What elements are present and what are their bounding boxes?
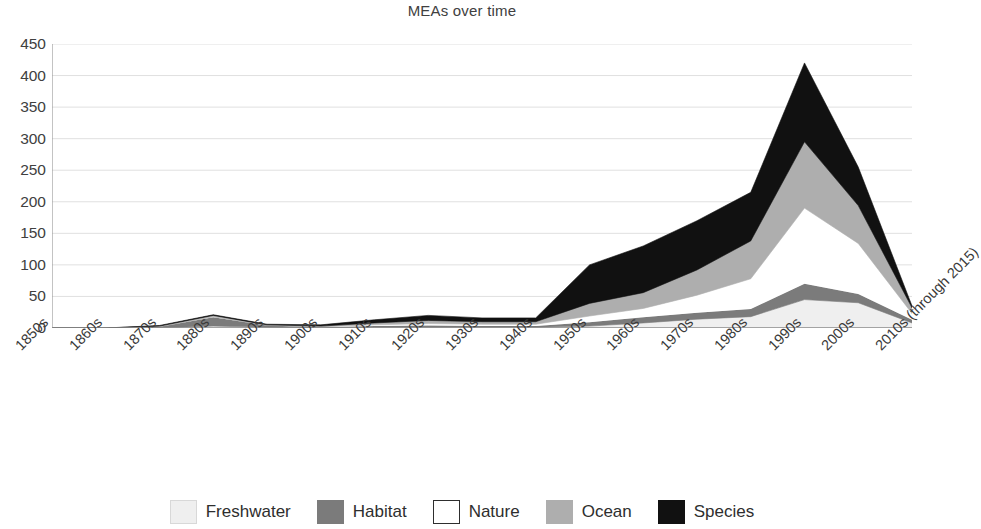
legend-label: Freshwater [206,502,291,522]
legend-swatch-icon [170,500,197,524]
legend-swatch-icon [546,500,573,524]
legend-item-ocean[interactable]: Ocean [546,500,632,524]
legend-item-nature[interactable]: Nature [433,500,520,524]
legend-label: Habitat [353,502,407,522]
legend-label: Nature [469,502,520,522]
plot-area [52,44,912,328]
legend-label: Species [694,502,754,522]
chart-legend: FreshwaterHabitatNatureOceanSpecies [0,494,924,529]
legend-item-species[interactable]: Species [658,500,754,524]
stacked-area-svg [52,44,912,328]
legend-item-freshwater[interactable]: Freshwater [170,500,291,524]
legend-swatch-icon [658,500,685,524]
legend-swatch-icon [433,500,460,524]
legend-label: Ocean [582,502,632,522]
legend-swatch-icon [317,500,344,524]
legend-item-habitat[interactable]: Habitat [317,500,407,524]
